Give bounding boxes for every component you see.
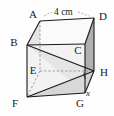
vertex-label-h: H: [100, 66, 108, 78]
vertex-label-e: E: [30, 64, 37, 76]
dimension-leader-left: [44, 12, 52, 16]
cube-diagram-svg: 4 cm A D B C E H F G x: [0, 0, 114, 116]
vertex-label-f: F: [12, 97, 18, 109]
vertex-label-c: C: [74, 44, 81, 56]
vertex-label-b: B: [10, 36, 17, 48]
dimension-leader-right: [78, 12, 89, 16]
dimension-label: 4 cm: [54, 7, 73, 17]
vertex-label-g: G: [76, 97, 84, 109]
vertex-label-a: A: [29, 8, 37, 20]
cube-figure: 4 cm A D B C E H F G x: [0, 0, 114, 116]
angle-label-x: x: [85, 88, 90, 98]
vertex-label-d: D: [99, 10, 107, 22]
